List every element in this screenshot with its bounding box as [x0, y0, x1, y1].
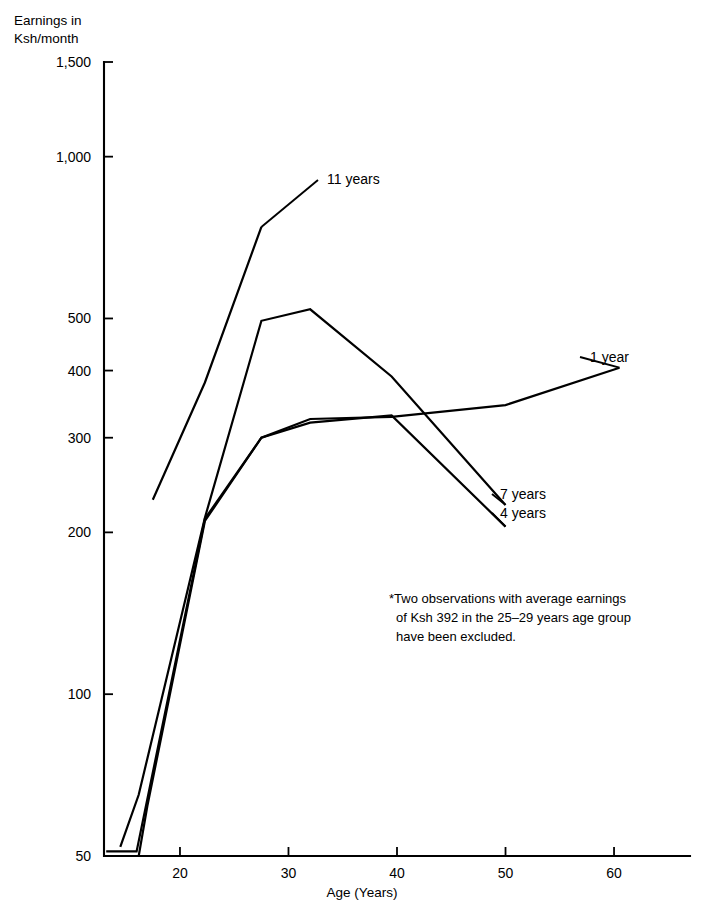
y-tick-label: 400 [68, 363, 92, 379]
footnote-annotation: *Two observations with average earningso… [389, 591, 631, 644]
y-tick-label: 200 [68, 524, 92, 540]
chart-canvas: Earnings in Ksh/month 501002003004005001… [0, 0, 707, 908]
y-tick-label: 300 [68, 430, 92, 446]
series-labels: 11 years7 years4 years1 year [327, 171, 629, 521]
y-tick-label: 1,000 [56, 149, 91, 165]
series-lines [106, 227, 619, 856]
series-line-7-years [120, 309, 505, 847]
x-tick-label: 20 [172, 865, 188, 881]
x-axis-ticks: 2030405060 [172, 847, 622, 881]
series-label-11-years: 11 years [327, 171, 380, 187]
y-tick-label: 500 [68, 310, 92, 326]
earnings-by-age-chart: Earnings in Ksh/month 501002003004005001… [0, 0, 707, 908]
footnote-line: have been excluded. [396, 629, 516, 644]
y-axis-label-line2: Ksh/month [14, 31, 79, 46]
series-leader-lines [261, 180, 619, 527]
series-label-7-years: 7 years [500, 486, 546, 502]
footnote-line: *Two observations with average earnings [389, 591, 627, 606]
x-axis-label: Age (Years) [327, 885, 398, 900]
x-tick-label: 50 [498, 865, 514, 881]
series-line-11-years [153, 227, 262, 500]
leader-line-11-years [261, 180, 318, 227]
x-tick-label: 30 [281, 865, 297, 881]
x-tick-label: 40 [389, 865, 405, 881]
series-label-4-years: 4 years [500, 505, 546, 521]
y-axis-label-line1: Earnings in [14, 13, 82, 28]
chart-axes [104, 62, 690, 856]
x-tick-label: 60 [606, 865, 622, 881]
footnote-line: of Ksh 392 in the 25–29 years age group [396, 610, 631, 625]
y-tick-label: 50 [75, 848, 91, 864]
series-label-1-year: 1 year [590, 349, 629, 365]
y-tick-label: 100 [68, 686, 92, 702]
y-tick-label: 1,500 [56, 54, 91, 70]
